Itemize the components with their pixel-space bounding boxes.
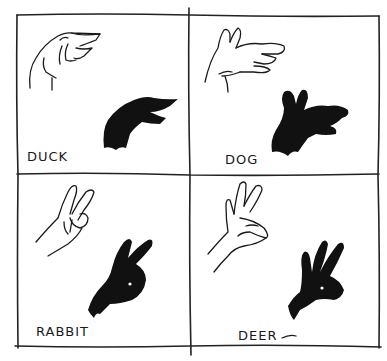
panel-dog: DOG [205, 28, 348, 167]
dog-shadow [272, 90, 349, 156]
duck-label: DUCK [27, 149, 68, 164]
duck-hand-drawing [30, 33, 100, 90]
deer-hand-drawing [208, 182, 268, 272]
shadow-puppet-illustration: DUCK DOG RABB [0, 0, 387, 361]
grid-frame [15, 8, 381, 355]
panel-deer: DEER [208, 182, 344, 343]
panel-rabbit: RABBIT [36, 186, 153, 339]
panel-duck: DUCK [27, 33, 178, 164]
rabbit-shadow [88, 239, 153, 318]
duck-shadow [104, 97, 179, 150]
dog-hand-drawing [205, 28, 284, 92]
deer-shadow [288, 240, 344, 320]
rabbit-label: RABBIT [36, 324, 89, 339]
deer-label: DEER [238, 328, 277, 343]
deer-label-flourish [282, 335, 296, 338]
dog-label: DOG [225, 152, 258, 167]
rabbit-hand-drawing [36, 186, 94, 256]
